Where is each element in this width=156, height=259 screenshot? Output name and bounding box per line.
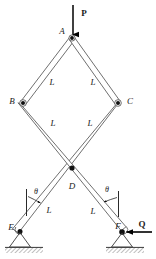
joint-D <box>69 165 74 170</box>
member-A-C <box>70 37 120 105</box>
joint-B <box>20 100 27 107</box>
pin-support-right <box>106 233 144 253</box>
length-label-AC: L <box>90 78 95 87</box>
member-C-D-E <box>13 102 120 234</box>
joint-label-A: A <box>59 27 65 36</box>
length-label-CD: L <box>87 119 92 128</box>
diagram-canvas: P Q A B C D E F L L L L L L θ θ <box>0 0 156 259</box>
length-label-BD: L <box>50 119 55 128</box>
load-label-P: P <box>81 9 87 18</box>
joint-label-B: B <box>9 97 15 106</box>
linkage-figure <box>0 0 156 259</box>
joint-label-C: C <box>127 97 133 106</box>
pin-support-left <box>5 233 43 254</box>
joint-label-D: D <box>69 182 76 191</box>
length-label-AB: L <box>49 78 54 87</box>
joint-A <box>69 35 75 41</box>
joint-label-E: E <box>8 223 14 232</box>
angle-label-theta-left: θ <box>34 188 38 196</box>
joint-C <box>115 100 122 107</box>
member-A-B <box>21 37 75 105</box>
length-label-DF: L <box>90 207 95 216</box>
angle-label-theta-right: θ <box>105 186 109 194</box>
joint-label-F: F <box>115 222 121 231</box>
load-label-Q: Q <box>138 220 145 229</box>
length-label-DE: L <box>46 206 51 215</box>
